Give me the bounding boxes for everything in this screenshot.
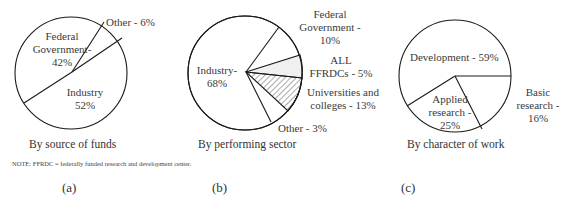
label-a-industry: Industry 52%	[60, 86, 110, 112]
figure: Federal Government- 42% Other - 6% Indus…	[0, 0, 582, 206]
label-b-ffrdc: ALL FFRDCs - 5%	[305, 54, 377, 80]
panel-label-a: (a)	[62, 180, 76, 196]
label-b-industry: Industry- 68%	[192, 64, 242, 90]
label-a-federal: Federal Government- 42%	[24, 30, 100, 69]
label-b-federal: Federal Government - 10%	[290, 8, 370, 47]
caption-c: By character of work	[407, 138, 504, 150]
caption-a: By source of funds	[29, 138, 116, 150]
panel-label-b: (b)	[212, 180, 227, 196]
label-c-basic: Basic research - 16%	[510, 86, 566, 125]
label-b-other: Other - 3%	[278, 122, 327, 135]
label-b-universities: Universities and colleges - 13%	[302, 86, 384, 112]
footnote: NOTE: FFRDC = federally funded research …	[12, 160, 191, 167]
label-a-other: Other - 6%	[106, 16, 155, 29]
panel-label-c: (c)	[401, 180, 415, 196]
label-c-development: Development - 59%	[410, 51, 499, 64]
label-c-applied: Applied research - 25%	[420, 93, 480, 132]
caption-b: By performing sector	[198, 138, 296, 150]
